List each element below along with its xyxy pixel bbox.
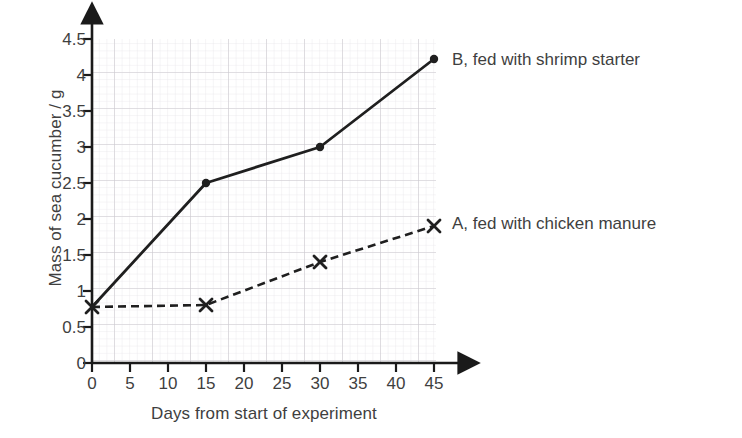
x-tick-label: 0 — [72, 375, 112, 392]
y-axis-title: Mass of sea cucumber / g — [46, 38, 66, 338]
legend-label-series-a: A, fed with chicken manure — [452, 215, 656, 232]
x-axis-title: Days from start of experiment — [92, 404, 436, 424]
plot-grid-background — [92, 39, 436, 363]
y-tick-label: 0 — [44, 355, 86, 372]
x-tick-label: 45 — [414, 375, 454, 392]
x-tick-label: 5 — [110, 375, 150, 392]
x-tick-label: 20 — [224, 375, 264, 392]
x-tick-label: 40 — [376, 375, 416, 392]
x-tick-label: 15 — [186, 375, 226, 392]
legend-label-series-b: B, fed with shrimp starter — [452, 51, 640, 68]
x-tick-label: 25 — [262, 375, 302, 392]
x-tick-label: 35 — [338, 375, 378, 392]
x-axis-ticks — [92, 363, 434, 372]
x-tick-label: 10 — [148, 375, 188, 392]
line-chart: 0 0.5 1 1.5 2 2.5 3 3.5 4 4.5 0 5 10 15 … — [0, 0, 742, 438]
x-tick-label: 30 — [300, 375, 340, 392]
